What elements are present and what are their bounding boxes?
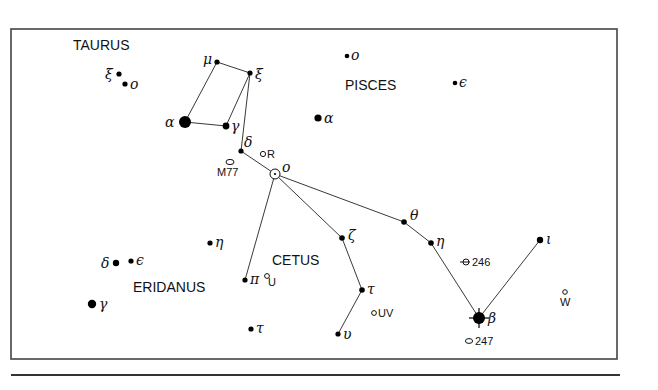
star-label: α	[324, 110, 334, 126]
star-dot-icon	[335, 331, 340, 336]
star-label: υ	[343, 326, 352, 342]
object-ngc247: 247	[465, 335, 493, 347]
variable-star-center	[274, 173, 276, 175]
star-cet-iota: ι	[537, 231, 552, 247]
star-cet-theta: θ	[401, 207, 419, 225]
star-cet-beta: β	[469, 308, 496, 328]
constellation-label-eridanus: ERIDANUS	[133, 279, 205, 295]
star-dot-icon	[428, 240, 434, 246]
star-label: τ	[256, 320, 264, 336]
star-label: δ	[101, 255, 109, 271]
star-dot-icon	[242, 277, 247, 282]
variable-star-icon	[563, 290, 568, 295]
object-label: 246	[472, 256, 490, 268]
star-cet-gamma: γ	[223, 118, 240, 134]
star-label: α	[165, 114, 175, 130]
star-psc-omicron: ο	[345, 47, 360, 63]
star-label: ϵ	[136, 252, 144, 268]
star-label: ξ	[105, 66, 114, 82]
star-label: μ	[203, 51, 212, 67]
galaxy-icon	[226, 159, 234, 164]
star-dot-icon	[207, 240, 212, 245]
star-dot-icon	[314, 114, 321, 121]
constellation-line	[185, 122, 226, 126]
star-dot-icon	[128, 258, 133, 263]
star-label: β	[487, 310, 496, 326]
star-label: ο	[130, 76, 138, 92]
star-cet-alpha: α	[165, 114, 191, 130]
star-dot-icon	[453, 81, 458, 86]
star-cet-eta: η	[428, 233, 445, 249]
star-dot-icon	[345, 54, 350, 59]
constellation-line	[185, 62, 217, 122]
star-cet-xi: ξ	[247, 66, 264, 82]
star-psc-alpha: α	[314, 110, 334, 126]
star-label: γ	[231, 118, 240, 134]
constellation-line	[479, 240, 540, 318]
constellation-label-taurus: TAURUS	[73, 37, 130, 53]
constellation-label-cetus: CETUS	[272, 252, 319, 268]
star-dot-icon	[113, 260, 119, 266]
star-dot-icon	[247, 70, 252, 75]
star-dot-icon	[88, 300, 96, 308]
constellation-line	[431, 243, 479, 318]
star-label: π	[249, 271, 260, 287]
star-cet-upsilon: υ	[335, 326, 352, 342]
star-eri-epsilon: ϵ	[128, 252, 144, 268]
constellation-line	[275, 174, 404, 222]
galaxy-icon	[465, 339, 472, 344]
star-psc-epsilon: ϵ	[453, 74, 467, 90]
star-label: ο	[351, 47, 359, 63]
star-dot-icon	[537, 237, 543, 243]
object-uv: UV	[372, 307, 394, 319]
object-m77: M77	[217, 159, 238, 178]
object-u: U	[265, 274, 276, 288]
constellation-line	[217, 62, 250, 73]
star-dot-icon	[179, 116, 191, 128]
star-cet-zeta: ζ	[339, 227, 357, 243]
star-label: θ	[410, 207, 419, 223]
deep-sky-objects: οRM77UUV246247W	[217, 148, 571, 347]
object-label: U	[268, 276, 276, 288]
object-label: 247	[475, 335, 493, 347]
star-tau-omicron: ο	[122, 76, 138, 92]
object-label: M77	[217, 166, 238, 178]
star-cet-pi: π	[242, 271, 260, 287]
star-label: δ	[244, 134, 252, 150]
constellation-label-pisces: PISCES	[345, 77, 396, 93]
star-label: η	[215, 234, 224, 250]
star-dot-icon	[473, 312, 485, 324]
star-dot-icon	[223, 123, 230, 130]
star-label: τ	[367, 281, 375, 297]
object-r: R	[260, 148, 275, 160]
star-dot-icon	[339, 235, 345, 241]
constellation-line	[275, 174, 342, 238]
star-eri-gamma: γ	[88, 296, 108, 312]
object-label: UV	[378, 307, 394, 319]
variable-star-icon	[372, 311, 377, 316]
star-eri-delta: δ	[101, 255, 119, 271]
constellation-line	[342, 238, 362, 290]
star-label: ξ	[255, 66, 264, 82]
star-cet-tau: τ	[359, 281, 375, 297]
star-dot-icon	[401, 219, 407, 225]
stars: ξομξαγδοϵαθζηιτυβπτηδϵγ	[88, 47, 552, 342]
variable-star-icon	[260, 151, 265, 156]
star-cet-mu: μ	[203, 51, 220, 67]
star-dot-icon	[248, 326, 253, 331]
star-dot-icon	[116, 71, 121, 76]
object-ngc246: 246	[460, 256, 490, 268]
star-eri-eta: η	[207, 234, 224, 250]
star-label: ϵ	[459, 74, 467, 90]
constellation-line	[404, 222, 431, 243]
object-label: W	[560, 296, 571, 308]
object-label: ο	[282, 159, 290, 175]
star-tau-xi: ξ	[105, 66, 122, 82]
constellation-line	[245, 174, 275, 280]
star-chart: TAURUSPISCESCETUSERIDANUS οRM77UUV246247…	[0, 0, 658, 390]
star-label: γ	[99, 296, 108, 312]
star-dot-icon	[238, 148, 243, 153]
star-cet-tau2: τ	[248, 320, 264, 336]
star-label: ζ	[348, 227, 357, 243]
star-dot-icon	[122, 81, 127, 86]
